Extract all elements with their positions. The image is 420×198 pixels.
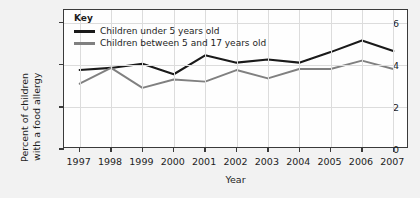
y-axis-tick (59, 22, 64, 23)
x-axis-tick-label: 2001 (192, 156, 216, 167)
legend: Key Children under 5 years old Children … (74, 14, 266, 49)
legend-label-0: Children under 5 years old (100, 27, 219, 36)
legend-item-1: Children between 5 and 17 years old (74, 37, 266, 49)
legend-label-1: Children between 5 and 17 years old (100, 39, 266, 48)
x-axis-tick-label: 2002 (223, 156, 247, 167)
x-axis-tick (79, 147, 80, 152)
y-axis-tick (59, 106, 64, 107)
legend-item-0: Children under 5 years old (74, 25, 266, 37)
y-axis-tick (59, 148, 64, 149)
y-axis-title-line1: Percent of children (19, 73, 30, 162)
x-axis-tick (330, 147, 331, 152)
x-axis-tick (236, 147, 237, 152)
x-axis-tick (142, 147, 143, 152)
gridline-vertical (362, 10, 363, 147)
x-axis-tick-label: 2006 (349, 156, 373, 167)
legend-title: Key (74, 14, 266, 23)
x-axis-tick (110, 147, 111, 152)
x-axis-tick-label: 2003 (255, 156, 279, 167)
gridline-horizontal (64, 107, 407, 108)
x-axis-tick-label: 2005 (317, 156, 341, 167)
x-axis-tick-label: 2007 (380, 156, 404, 167)
gridline-vertical (268, 10, 269, 147)
y-axis-title: Percent of children with a food allergy (8, 18, 34, 148)
x-axis-tick-label: 1998 (98, 156, 122, 167)
y-axis-title-line2: with a food allergy (31, 73, 42, 161)
gridline-vertical (299, 10, 300, 147)
x-axis-tick (393, 147, 394, 152)
x-axis-tick (267, 147, 268, 152)
x-axis-tick (204, 147, 205, 152)
y-axis-tick (59, 64, 64, 65)
x-axis-title: Year (63, 174, 408, 185)
gridline-horizontal (64, 65, 407, 66)
gridline-vertical (331, 10, 332, 147)
legend-swatch-line-black (74, 30, 95, 33)
x-axis-tick (173, 147, 174, 152)
x-axis-tick-label: 1999 (129, 156, 153, 167)
x-axis-tick-label: 2004 (286, 156, 310, 167)
chart-container: Percent of children with a food allergy … (0, 0, 420, 198)
legend-swatch-line-gray (74, 42, 95, 45)
x-axis-tick-label: 2000 (161, 156, 185, 167)
x-axis-tick (299, 147, 300, 152)
gridline-vertical (393, 10, 394, 147)
x-axis-tick-label: 1997 (67, 156, 91, 167)
x-axis-tick (361, 147, 362, 152)
